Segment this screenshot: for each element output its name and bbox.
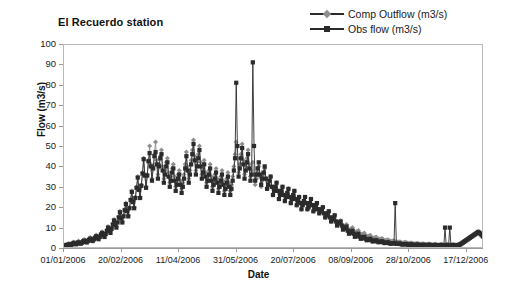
square-marker-icon bbox=[324, 26, 330, 32]
plot-inner bbox=[64, 45, 482, 247]
x-tick-mark bbox=[236, 248, 237, 252]
plot-area bbox=[63, 44, 483, 248]
legend-swatch-obs-flow bbox=[310, 23, 344, 34]
x-tick-mark bbox=[293, 248, 294, 252]
chart-legend: Comp Outflow (m3/s) Obs flow (m3/s) bbox=[310, 6, 447, 36]
x-axis-title: Date bbox=[0, 269, 517, 280]
x-axis-line bbox=[63, 248, 483, 249]
y-tick-label: 60 bbox=[30, 121, 56, 130]
legend-label-comp-outflow: Comp Outflow (m3/s) bbox=[348, 8, 447, 20]
legend-label-obs-flow: Obs flow (m3/s) bbox=[348, 23, 422, 35]
x-tick-mark bbox=[351, 248, 352, 252]
legend-item-comp-outflow: Comp Outflow (m3/s) bbox=[310, 6, 447, 21]
series-canvas bbox=[64, 45, 482, 247]
y-tick-label: 80 bbox=[30, 80, 56, 89]
x-tick-mark bbox=[466, 248, 467, 252]
x-tick-mark bbox=[121, 248, 122, 252]
x-tick-mark bbox=[178, 248, 179, 252]
y-tick-label: 50 bbox=[30, 141, 56, 150]
diamond-marker-icon bbox=[323, 10, 331, 18]
x-tick-mark bbox=[408, 248, 409, 252]
y-tick-label: 100 bbox=[30, 39, 56, 48]
y-tick-label: 40 bbox=[30, 161, 56, 170]
chart-container: El Recuerdo station Comp Outflow (m3/s) … bbox=[0, 0, 517, 293]
x-tick-mark bbox=[63, 248, 64, 252]
series-obs-flow bbox=[64, 60, 482, 247]
x-tick-label: 17/12/2006 bbox=[431, 255, 501, 265]
chart-title: El Recuerdo station bbox=[58, 16, 163, 28]
y-tick-label: 90 bbox=[30, 59, 56, 68]
y-tick-label: 10 bbox=[30, 223, 56, 232]
legend-item-obs-flow: Obs flow (m3/s) bbox=[310, 21, 447, 36]
y-tick-label: 70 bbox=[30, 100, 56, 109]
y-tick-label: 0 bbox=[30, 243, 56, 252]
legend-swatch-comp-outflow bbox=[310, 8, 344, 19]
y-tick-label: 20 bbox=[30, 202, 56, 211]
y-tick-label: 30 bbox=[30, 182, 56, 191]
